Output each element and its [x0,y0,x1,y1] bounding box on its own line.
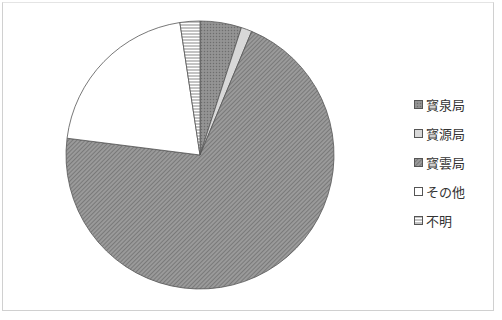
slice-other [67,23,200,155]
legend-item-houun: 寳雲局 [414,148,465,177]
legend-label: その他 [426,182,465,201]
swatch-light-icon [414,129,423,138]
swatch-white-icon [414,187,423,196]
legend-label: 寳雲局 [426,153,465,172]
pie-slices [66,21,334,289]
legend-item-hougen: 寳源局 [414,119,465,148]
swatch-horizontal-lines-icon [414,216,423,225]
swatch-hatch-icon [414,158,423,167]
legend: 寳泉局 寳源局 寳雲局 その他 不明 [414,90,465,235]
legend-label: 不明 [426,211,452,230]
swatch-dots-icon [414,100,423,109]
legend-label: 寳泉局 [426,95,465,114]
legend-item-unknown: 不明 [414,206,465,235]
legend-label: 寳源局 [426,124,465,143]
legend-item-other: その他 [414,177,465,206]
legend-item-housen: 寳泉局 [414,90,465,119]
